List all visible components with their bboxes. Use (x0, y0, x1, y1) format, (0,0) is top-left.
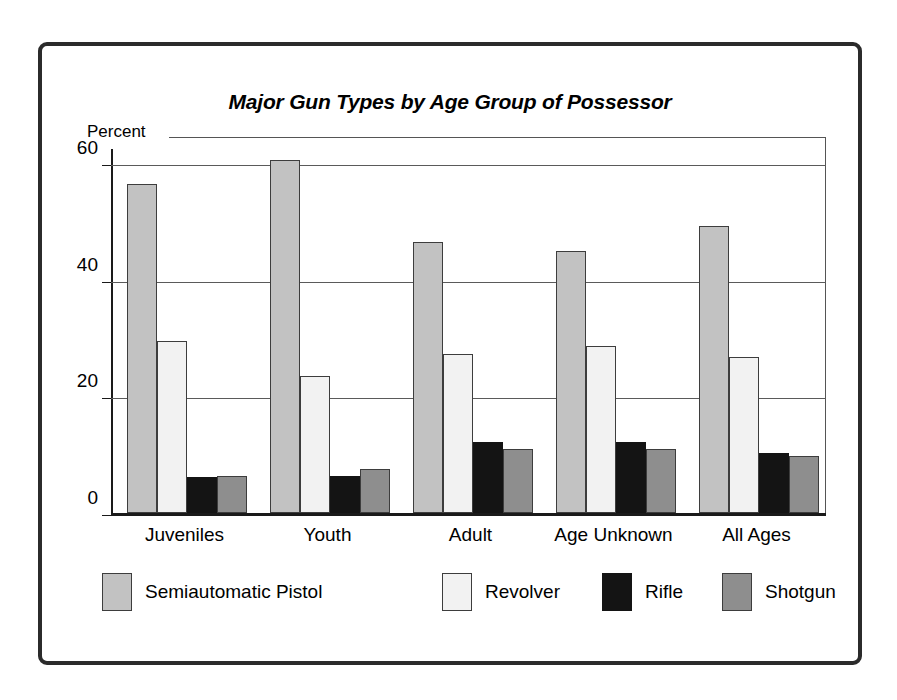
legend-swatch (102, 573, 132, 611)
bar (556, 251, 586, 513)
x-axis-category-label: Youth (304, 524, 352, 546)
y-tick-mark (102, 398, 111, 399)
bar (330, 476, 360, 513)
legend-label: Shotgun (765, 581, 836, 603)
x-axis-category-label: Adult (449, 524, 492, 546)
plot-area: 0204060 (111, 137, 826, 516)
legend-label: Semiautomatic Pistol (145, 581, 322, 603)
legend-swatch (602, 573, 632, 611)
y-tick-label: 40 (77, 254, 98, 273)
legend-swatch (442, 573, 472, 611)
bar (127, 184, 157, 513)
legend-item[interactable]: Semiautomatic Pistol (102, 573, 322, 611)
bar (646, 449, 676, 513)
bar (616, 442, 646, 513)
bar-group (556, 137, 676, 513)
bar (217, 476, 247, 513)
y-tick-mark (102, 282, 111, 283)
bar (360, 469, 390, 513)
x-axis-category-label: Juveniles (145, 524, 224, 546)
bar (413, 242, 443, 513)
y-tick-mark (102, 165, 111, 166)
figure-frame: Major Gun Types by Age Group of Possesso… (38, 42, 862, 665)
bar (729, 357, 759, 513)
x-axis-category-label: All Ages (722, 524, 791, 546)
legend-item[interactable]: Shotgun (722, 573, 836, 611)
bar (503, 449, 533, 513)
legend-label: Revolver (485, 581, 560, 603)
bar-group (699, 137, 819, 513)
y-tick-label: 0 (87, 488, 98, 507)
bar-group (413, 137, 533, 513)
legend-swatch (722, 573, 752, 611)
plot-border-right (825, 137, 826, 516)
y-tick-label: 60 (77, 138, 98, 157)
bar (789, 456, 819, 513)
bar (759, 453, 789, 513)
legend-item[interactable]: Rifle (602, 573, 683, 611)
bar (473, 442, 503, 513)
bar (586, 346, 616, 513)
bar-group (270, 137, 390, 513)
chart-legend: Semiautomatic PistolRevolverRifleShotgun (102, 573, 822, 625)
x-axis-category-labels: JuvenilesYouthAdultAge UnknownAll Ages (111, 524, 826, 554)
x-axis-line (111, 513, 826, 516)
legend-item[interactable]: Revolver (442, 573, 560, 611)
bar (270, 160, 300, 513)
bar-group (127, 137, 247, 513)
chart-title: Major Gun Types by Age Group of Possesso… (42, 90, 858, 114)
x-axis-category-label: Age Unknown (554, 524, 672, 546)
legend-label: Rifle (645, 581, 683, 603)
y-tick-mark (102, 515, 111, 516)
bar (300, 376, 330, 513)
bar (187, 477, 217, 513)
bars-layer (113, 137, 825, 513)
bar (443, 354, 473, 513)
y-tick-label: 20 (77, 371, 98, 390)
bar (157, 341, 187, 513)
bar (699, 226, 729, 513)
